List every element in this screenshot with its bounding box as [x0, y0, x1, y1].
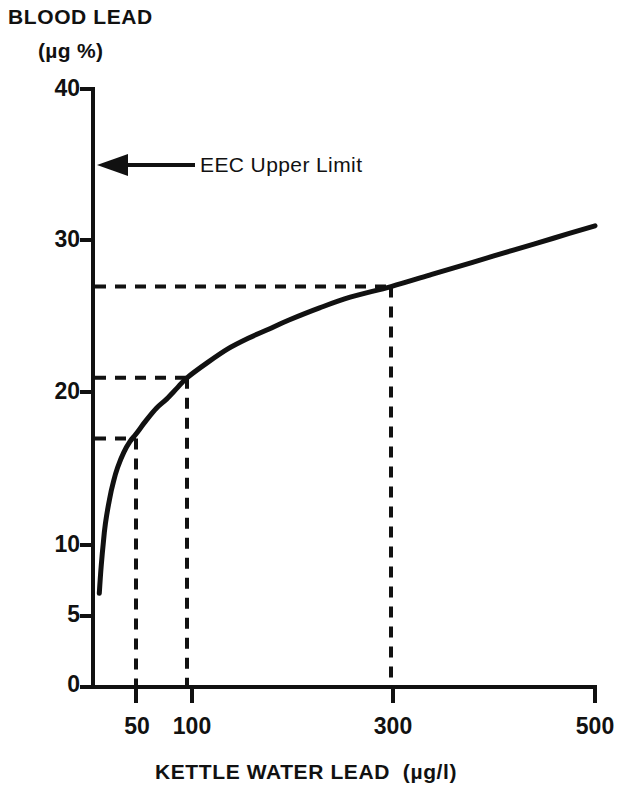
- data-curve: [99, 226, 595, 594]
- plot-area: [0, 0, 640, 811]
- eec-upper-limit-arrow-icon: [97, 154, 195, 176]
- guide-lines-300: [95, 287, 391, 687]
- chart-figure: BLOOD LEAD (µg %) KETTLE WATER LEAD (µg/…: [0, 0, 640, 811]
